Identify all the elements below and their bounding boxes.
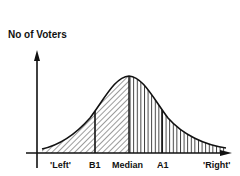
- x-label-median: Median: [112, 160, 143, 170]
- x-label-right: 'Right': [203, 160, 230, 170]
- y-axis-label: No of Voters: [8, 29, 67, 40]
- x-label-a1: A1: [157, 160, 169, 170]
- x-label-b1: B1: [89, 160, 101, 170]
- x-label-left: 'Left': [50, 160, 71, 170]
- voter-distribution-diagram: No of Voters 'Left' B1 Median A1 'Right': [0, 0, 240, 176]
- y-axis-arrow-icon: [34, 50, 40, 61]
